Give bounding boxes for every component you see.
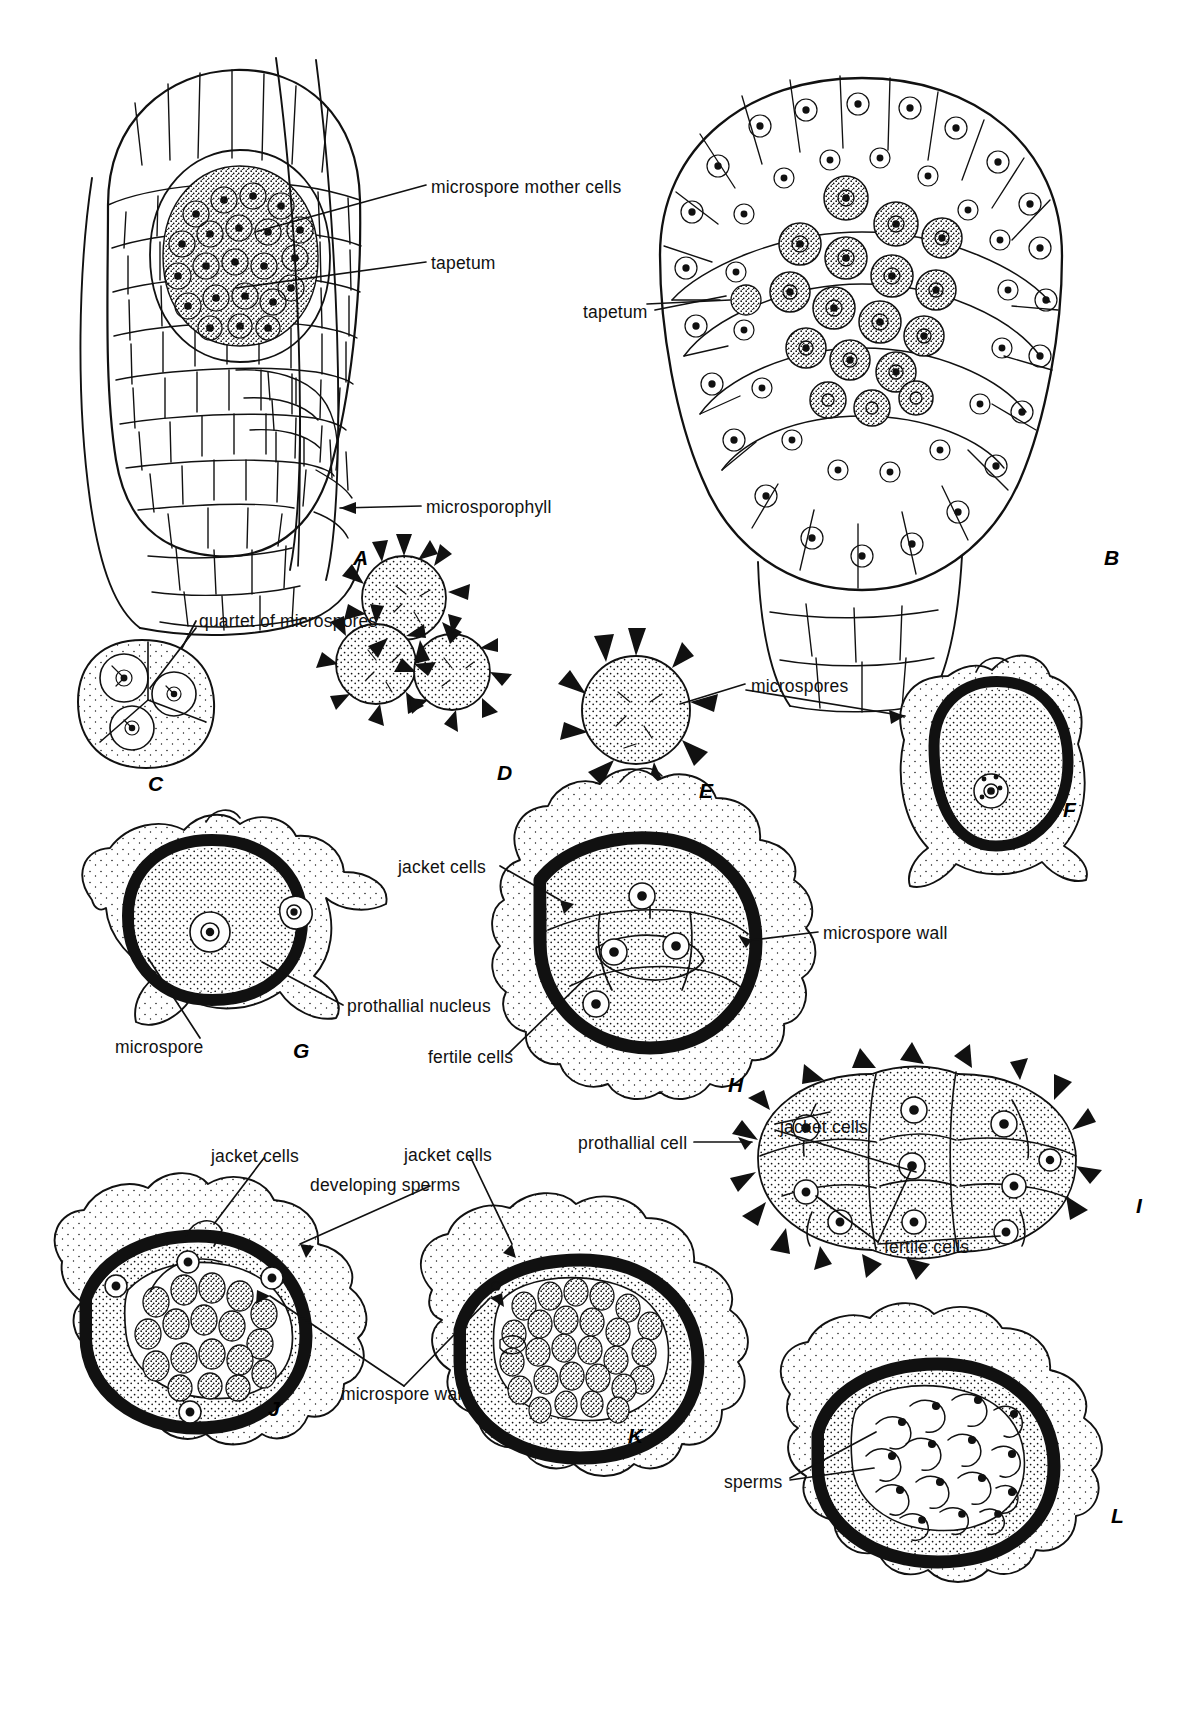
panel-f-microspore-wall [900, 656, 1087, 887]
label-microspore-wall-jk: microspore wall [341, 1384, 466, 1405]
illustration-plate [0, 0, 1185, 1714]
label-jacket-cells-i: jacket cells [780, 1117, 868, 1138]
label-quartet-of-microspores: quartet of microspores [199, 611, 378, 632]
panel-letter-b: B [1104, 546, 1119, 570]
label-prothallial-cell: prothallial cell [578, 1133, 687, 1154]
panel-letter-i: I [1136, 1194, 1142, 1218]
panel-c-quartet [78, 640, 214, 768]
label-prothallial-nucleus: prothallial nucleus [347, 996, 491, 1017]
panel-letter-a: A [353, 546, 368, 570]
panel-letter-c: C [148, 772, 163, 796]
panel-letter-d: D [497, 761, 512, 785]
label-tapetum-a: tapetum [431, 253, 496, 274]
label-developing-sperms: developing sperms [310, 1175, 460, 1196]
label-tapetum-b: tapetum [583, 302, 648, 323]
panel-letter-k: K [628, 1424, 643, 1448]
label-microspore-mother-cells: microspore mother cells [431, 177, 621, 198]
label-jacket-cells-j: jacket cells [211, 1146, 299, 1167]
panel-letter-j: J [268, 1397, 280, 1421]
label-microspore-g: microspore [115, 1037, 204, 1058]
label-sperms: sperms [724, 1472, 783, 1493]
panel-letter-l: L [1111, 1504, 1124, 1528]
label-microspore-wall-h: microspore wall [823, 923, 948, 944]
label-jacket-cells-h: jacket cells [398, 857, 486, 878]
panel-letter-h: H [728, 1073, 743, 1097]
label-jacket-cells-k: jacket cells [404, 1145, 492, 1166]
label-fertile-cells-i: fertile cells [884, 1237, 969, 1258]
label-microspores: microspores [751, 676, 849, 697]
panel-letter-e: E [699, 779, 713, 803]
label-fertile-cells-h: fertile cells [428, 1047, 513, 1068]
plate-artwork [0, 0, 1185, 1714]
panel-letter-g: G [293, 1039, 309, 1063]
label-microsporophyll: microsporophyll [426, 497, 552, 518]
panel-letter-f: F [1063, 798, 1076, 822]
